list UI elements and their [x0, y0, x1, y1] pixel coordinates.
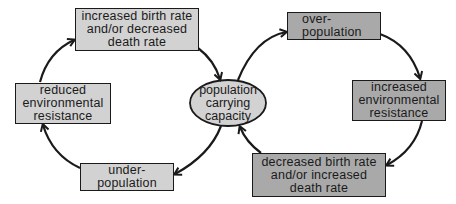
node-over-population: over- population — [287, 12, 381, 40]
population-carrying-capacity: population carrying capacity — [190, 80, 266, 126]
arrow-capacity-to-over — [238, 32, 286, 80]
node-under-population: under- population — [80, 163, 174, 191]
arrow-reduced-to-birth — [40, 40, 74, 82]
node-label: increased environmental resistance — [358, 81, 439, 120]
arrow-decreased-birth-to-capacity — [240, 127, 261, 153]
node-label: under- population — [97, 164, 157, 190]
arrow-over-to-increased-env — [380, 34, 420, 78]
node-decreased-birth-rate: decreased birth rate and/or increased de… — [252, 153, 386, 197]
node-reduced-environmental-resistance: reduced environmental resistance — [15, 83, 111, 124]
node-increased-birth-rate: increased birth rate and/or decreased de… — [75, 8, 199, 51]
arrow-birth-to-capacity — [198, 48, 220, 79]
node-label: decreased birth rate and/or increased de… — [261, 156, 376, 195]
node-label: increased birth rate and/or decreased de… — [81, 10, 192, 49]
arrow-increased-env-to-decreased-birth — [387, 121, 422, 165]
arrow-capacity-to-under — [175, 126, 221, 174]
arrow-under-to-reduced — [43, 125, 80, 168]
node-label: over- population — [302, 13, 362, 39]
node-label: reduced environmental resistance — [22, 84, 103, 123]
node-increased-environmental-resistance: increased environmental resistance — [352, 80, 446, 121]
